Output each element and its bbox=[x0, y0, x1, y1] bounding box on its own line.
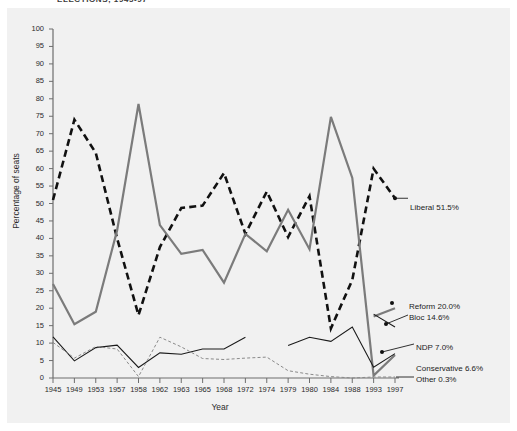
y-tick-label: 35 bbox=[22, 252, 44, 260]
annotation-ndp: NDP 7.0% bbox=[416, 343, 453, 352]
y-tick-label: 85 bbox=[22, 77, 44, 85]
chart-screenshot: ELECTIONS, 1945-97 051015202530354045505… bbox=[0, 0, 517, 431]
y-tick-label: 90 bbox=[22, 60, 44, 68]
y-tick-label: 20 bbox=[22, 304, 44, 312]
y-tick-label: 60 bbox=[22, 165, 44, 173]
y-tick-label: 95 bbox=[22, 42, 44, 50]
annotation-liberal: Liberal 51.5% bbox=[410, 203, 459, 212]
series-line-reform bbox=[374, 308, 395, 316]
series-line-conservative bbox=[53, 104, 395, 376]
annotation-other: Other 0.3% bbox=[416, 375, 456, 384]
annotation-leaders bbox=[380, 196, 414, 377]
y-tick-label: 10 bbox=[22, 339, 44, 347]
x-axis-title: Year bbox=[160, 402, 280, 412]
y-axis-title: Percentage of seats bbox=[11, 141, 21, 241]
y-tick-label: 70 bbox=[22, 130, 44, 138]
y-tick-label: 30 bbox=[22, 269, 44, 277]
series-line-bloc bbox=[374, 314, 395, 327]
y-axis-ticks bbox=[49, 29, 53, 378]
data-series bbox=[53, 104, 395, 378]
annotation-reform: Reform 20.0% bbox=[409, 302, 460, 311]
y-tick-label: 65 bbox=[22, 147, 44, 155]
y-tick-label: 0 bbox=[22, 374, 44, 382]
y-tick-label: 40 bbox=[22, 234, 44, 242]
x-tick-label: 1997 bbox=[382, 386, 408, 394]
y-tick-label: 5 bbox=[22, 357, 44, 365]
y-tick-label: 25 bbox=[22, 287, 44, 295]
series-line-other bbox=[53, 337, 395, 378]
x-axis-ticks bbox=[53, 378, 395, 383]
annotation-conservative: Conservative 6.6% bbox=[416, 364, 483, 373]
y-tick-label: 45 bbox=[22, 217, 44, 225]
y-tick-label: 50 bbox=[22, 200, 44, 208]
y-tick-label: 100 bbox=[22, 25, 44, 33]
annotation-bloc: Bloc 14.6% bbox=[409, 313, 449, 322]
y-tick-label: 75 bbox=[22, 112, 44, 120]
axis-lines bbox=[53, 29, 399, 378]
y-tick-label: 80 bbox=[22, 95, 44, 103]
y-tick-label: 15 bbox=[22, 322, 44, 330]
y-tick-label: 55 bbox=[22, 182, 44, 190]
